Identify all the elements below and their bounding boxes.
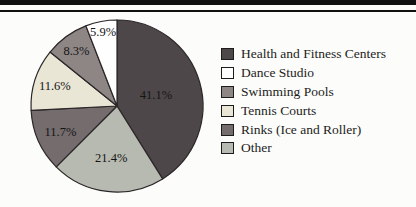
- legend-label: Other: [241, 140, 272, 156]
- pie-slice-label: 5.9%: [90, 25, 116, 39]
- pie-slice-label: 21.4%: [95, 151, 127, 165]
- chart-legend: Health and Fitness CentersDance StudioSw…: [221, 45, 386, 158]
- legend-label: Health and Fitness Centers: [241, 46, 386, 62]
- legend-item: Tennis Courts: [221, 101, 386, 120]
- legend-item: Health and Fitness Centers: [221, 45, 386, 64]
- legend-swatch: [221, 124, 234, 136]
- legend-label: Rinks (Ice and Roller): [241, 122, 361, 138]
- legend-item: Swimming Pools: [221, 83, 386, 102]
- legend-swatch: [221, 105, 234, 117]
- pie-slice-label: 41.1%: [140, 88, 172, 102]
- legend-swatch: [221, 67, 234, 79]
- legend-label: Tennis Courts: [241, 103, 316, 119]
- legend-item: Other: [221, 139, 386, 158]
- pie-slice-label: 11.6%: [39, 79, 71, 93]
- legend-label: Swimming Pools: [241, 84, 334, 100]
- legend-item: Dance Studio: [221, 64, 386, 83]
- legend-swatch: [221, 86, 234, 98]
- legend-swatch: [221, 48, 234, 60]
- legend-swatch: [221, 142, 234, 154]
- legend-label: Dance Studio: [241, 65, 314, 81]
- pie-slice-label: 11.7%: [44, 125, 76, 139]
- pie-slice-label: 8.3%: [63, 44, 89, 58]
- legend-item: Rinks (Ice and Roller): [221, 120, 386, 139]
